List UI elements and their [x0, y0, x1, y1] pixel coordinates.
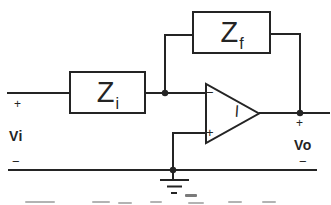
feedback-impedance-box: Zf — [192, 11, 271, 54]
feedback-impedance-subscript: f — [239, 35, 243, 52]
input-plus-sign: + — [14, 98, 21, 110]
opamp-inverting-input-sign: − — [206, 86, 214, 99]
junction-dot-inverting-node — [162, 90, 168, 96]
opamp-noninverting-input-sign: + — [206, 126, 214, 139]
input-impedance-subscript: i — [116, 95, 120, 112]
junction-dot-ground-node — [170, 167, 176, 173]
input-voltage-label: Vi — [9, 129, 23, 143]
output-plus-sign: + — [296, 117, 303, 129]
feedback-impedance-label: Zf — [220, 18, 242, 47]
circuit-wiring — [0, 0, 331, 205]
wire-feedback-left — [165, 35, 192, 93]
wire-feedback-right — [270, 34, 300, 113]
opamp-triangle — [206, 84, 259, 143]
circuit-diagram: Zi Zf − + l + Vi − + Vo − — [0, 0, 331, 205]
output-minus-sign: − — [299, 155, 307, 168]
input-impedance-box: Zi — [69, 71, 146, 114]
input-minus-sign: − — [12, 155, 20, 168]
output-voltage-label: Vo — [294, 138, 312, 152]
input-impedance-label: Zi — [97, 78, 118, 107]
wire-noninverting-to-ground — [173, 133, 206, 170]
